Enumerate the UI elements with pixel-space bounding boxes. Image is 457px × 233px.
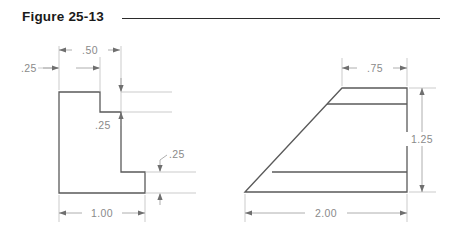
left-view-group: .50 .25 .25 [21,43,196,222]
dimension-upper-flange-thickness: .25 [95,78,124,131]
dim-label-right-overall-height: 1.25 [411,133,433,145]
left-part-outline [59,92,145,193]
dim-label-right-top-width: .75 [367,62,383,74]
dimension-lower-flange-thickness: .25 [157,148,184,205]
dimension-left-thickness: .25 [21,62,100,74]
dimension-left-overall-width: 1.00 [59,206,145,220]
dim-label-upper-flange-thickness: .25 [95,119,111,131]
left-extension-lines [38,46,196,222]
dimension-right-overall-width: 2.00 [245,206,407,220]
dim-label-left-thickness: .25 [21,62,37,74]
dimension-right-overall-height: 1.25 [405,88,439,192]
dim-label-right-overall-width: 2.00 [315,207,337,219]
figure-page: Figure 25-13 [0,0,457,233]
dimension-top-notch-width: .50 [59,43,120,57]
right-view-group: .75 1.25 2.00 [245,58,439,222]
technical-drawing-canvas: .50 .25 .25 [0,0,457,233]
dim-label-lower-flange-thickness: .25 [169,148,185,160]
dimension-right-top-width: .75 [342,61,407,75]
dim-label-top-notch-width: .50 [82,44,98,56]
dim-label-left-overall-width: 1.00 [91,207,113,219]
